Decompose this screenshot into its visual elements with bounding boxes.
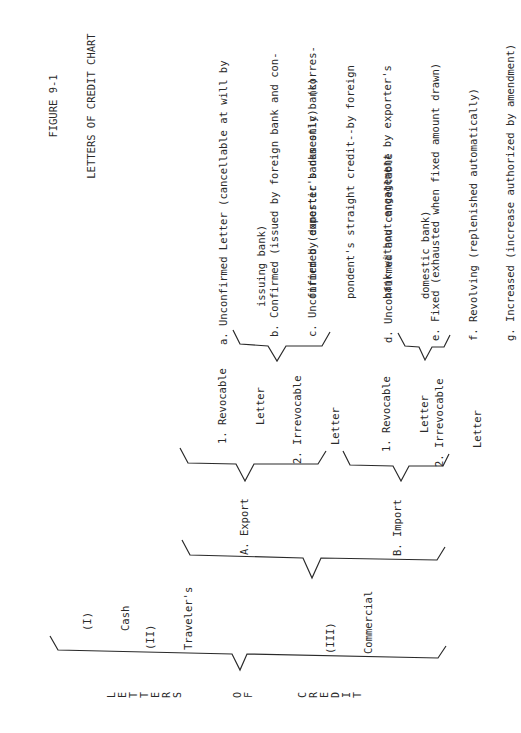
import-irrevocable: 2. Irrevocable Letter — [408, 378, 496, 467]
export-irrevocable: 2. Irrevocable Letter — [266, 375, 354, 464]
type-commercial: (III) Commercial — [299, 591, 387, 654]
option-d-unconfirmed-cancellable: d. Unconfirmed and cancellable — [357, 153, 407, 343]
option-f-revolving: f. Revolving (replenished automatically) — [467, 44, 480, 341]
type-travelers: (II) Traveler's — [119, 587, 207, 650]
option-e-fixed: e. Fixed (exhausted when fixed amount dr… — [429, 44, 442, 341]
option-efg-types: e. Fixed (exhausted when fixed amount dr… — [404, 44, 521, 341]
commercial-import: B. Import — [391, 499, 404, 556]
option-g-increased: g. Increased (increase authorized by ame… — [504, 44, 517, 341]
commercial-export: A. Export — [238, 498, 251, 555]
